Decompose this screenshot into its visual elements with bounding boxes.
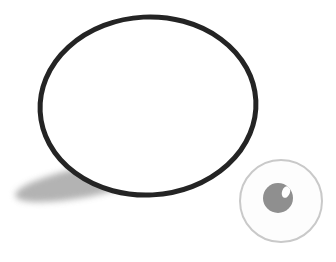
eye-icon — [240, 160, 322, 242]
illustration-canvas: Balloon and eye illustration — [0, 0, 336, 262]
artboard-svg: Balloon and eye illustration — [0, 0, 336, 262]
